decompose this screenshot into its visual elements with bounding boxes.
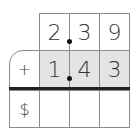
plus-operator: + bbox=[9, 50, 40, 88]
digit-cell: 3 bbox=[99, 50, 130, 88]
digit-cell: 1 bbox=[39, 50, 70, 88]
digit-cell: 9 bbox=[99, 13, 130, 51]
decimal-point bbox=[67, 76, 72, 81]
digit-cell: 2 bbox=[39, 13, 70, 51]
digit-cell: 3 bbox=[69, 13, 100, 51]
dollar-sign: $ bbox=[9, 90, 40, 128]
answer-cell[interactable] bbox=[39, 90, 70, 128]
digit-cell: 4 bbox=[69, 50, 100, 88]
answer-cell[interactable] bbox=[69, 90, 100, 128]
answer-cell[interactable] bbox=[99, 90, 130, 128]
decimal-point bbox=[67, 39, 72, 44]
